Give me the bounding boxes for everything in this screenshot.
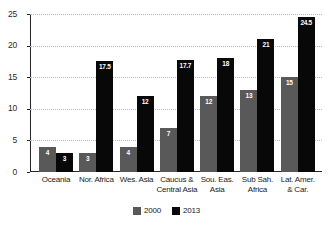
x-axis-category-labels: OceaniaNor. AfricaWes. AsiaCaucus &Centr…	[30, 175, 322, 201]
x-tick-label-line: Lat. Amer.	[266, 175, 330, 185]
bar-2013-caucus-central-asia: 17.7	[177, 60, 194, 172]
y-tick-label-5: 5	[0, 136, 17, 145]
bar-chart: 0510152025 43317.5412717.7121813211524.5…	[0, 0, 333, 229]
bar-group: 317.5	[79, 14, 113, 172]
y-tick-mark-5	[27, 140, 31, 141]
bar-value-label: 21	[257, 41, 274, 48]
bar-value-label: 17.7	[177, 62, 194, 69]
y-tick-label-25: 25	[0, 10, 17, 19]
y-tick-mark-10	[27, 109, 31, 110]
legend-item-2000[interactable]: 2000	[133, 207, 161, 215]
bar-2013-nor-africa: 17.5	[96, 61, 113, 172]
bar-value-label: 7	[160, 130, 177, 137]
bar-value-label: 3	[56, 155, 73, 162]
x-tick-label-line: & Car.	[266, 185, 330, 195]
bar-2000-wes-asia: 4	[120, 147, 137, 172]
bar-group: 1321	[240, 14, 274, 172]
y-tick-mark-25	[27, 14, 31, 15]
bar-value-label: 18	[217, 60, 234, 67]
bar-2013-wes-asia: 12	[137, 96, 154, 172]
bar-value-label: 4	[120, 149, 137, 156]
legend-swatch-2000	[133, 207, 141, 215]
y-tick-label-20: 20	[0, 41, 17, 50]
bar-2000-sub-sah-africa: 13	[240, 90, 257, 172]
y-tick-label-10: 10	[0, 104, 17, 113]
bar-2013-lat-amer-car: 24.5	[298, 17, 315, 172]
bar-2013-sub-sah-africa: 21	[257, 39, 274, 172]
bar-2000-oceania: 4	[39, 147, 56, 172]
plot-area: 0510152025 43317.5412717.7121813211524.5	[30, 14, 322, 172]
chart-legend: 20002013	[0, 207, 333, 215]
bar-group: 717.7	[160, 14, 194, 172]
legend-item-2013[interactable]: 2013	[172, 207, 200, 215]
y-tick-mark-15	[27, 77, 31, 78]
bar-value-label: 24.5	[298, 19, 315, 26]
bar-2013-oceania: 3	[56, 153, 73, 172]
bar-group: 43	[39, 14, 73, 172]
legend-swatch-2013	[172, 207, 180, 215]
bar-2000-nor-africa: 3	[79, 153, 96, 172]
bar-value-label: 17.5	[96, 63, 113, 70]
bar-value-label: 3	[79, 155, 96, 162]
bar-2000-caucus-central-asia: 7	[160, 128, 177, 172]
bar-value-label: 12	[200, 98, 217, 105]
y-tick-label-0: 0	[0, 168, 17, 177]
y-tick-label-15: 15	[0, 73, 17, 82]
bar-group: 1218	[200, 14, 234, 172]
bar-value-label: 4	[39, 149, 56, 156]
legend-label-2000: 2000	[144, 207, 161, 215]
bar-value-label: 15	[281, 79, 298, 86]
bar-value-label: 12	[137, 98, 154, 105]
bar-group: 412	[120, 14, 154, 172]
y-tick-mark-20	[27, 46, 31, 47]
bar-2000-sou-eas-asia: 12	[200, 96, 217, 172]
legend-label-2013: 2013	[183, 207, 200, 215]
bar-2000-lat-amer-car: 15	[281, 77, 298, 172]
x-tick-label-lat-amer-car: Lat. Amer.& Car.	[266, 175, 330, 194]
bar-2013-sou-eas-asia: 18	[217, 58, 234, 172]
bar-value-label: 13	[240, 92, 257, 99]
y-tick-mark-0	[27, 172, 31, 173]
bar-group: 1524.5	[281, 14, 315, 172]
